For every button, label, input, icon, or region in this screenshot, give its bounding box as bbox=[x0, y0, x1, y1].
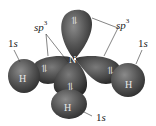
1s-label-right: 1s bbox=[138, 38, 148, 49]
nh3-orbital-diagram: sp3 sp3 1s 1s 1s N H H H ⥮ ⥮ ⥮ ⥮ bbox=[0, 0, 156, 126]
bond-pair-left-electrons-icon: ⥮ bbox=[40, 64, 48, 74]
sp3-label-left: sp3 bbox=[34, 22, 47, 33]
bond-pair-bottom-electrons-icon: ⥮ bbox=[66, 82, 74, 92]
hydrogen-atom-symbol-right: H bbox=[125, 80, 132, 90]
lone-pair-electrons-icon: ⥮ bbox=[70, 16, 78, 26]
1s-label-left: 1s bbox=[8, 38, 18, 49]
hydrogen-atom-symbol-bottom: H bbox=[64, 103, 71, 113]
hydrogen-atom-symbol-left: H bbox=[19, 74, 26, 84]
sp3-label-right: sp3 bbox=[116, 20, 129, 31]
nitrogen-atom-symbol: N bbox=[69, 55, 76, 65]
1s-label-bottom: 1s bbox=[96, 112, 106, 123]
bond-pair-right-electrons-icon: ⥮ bbox=[106, 66, 114, 76]
